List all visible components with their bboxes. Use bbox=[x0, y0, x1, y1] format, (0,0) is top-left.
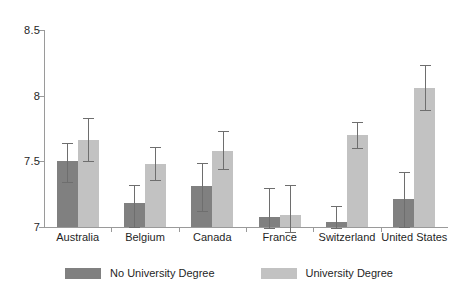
error-bar-cap-bottom bbox=[264, 228, 275, 229]
x-axis-label-belgium: Belgium bbox=[125, 231, 165, 243]
error-bar-line bbox=[404, 172, 405, 227]
y-tick-label: 8 bbox=[34, 90, 40, 102]
error-bar-line bbox=[425, 65, 426, 110]
error-bar-line bbox=[269, 188, 270, 229]
y-tick-label: 7.5 bbox=[24, 155, 40, 167]
error-bar-cap-top bbox=[331, 206, 342, 207]
error-bar-cap-bottom bbox=[218, 169, 229, 170]
error-bar-cap-bottom bbox=[420, 110, 431, 111]
error-bar-cap-top bbox=[129, 185, 140, 186]
bar-group bbox=[179, 30, 246, 227]
error-bar-cap-bottom bbox=[62, 182, 73, 183]
x-axis-label-canada: Canada bbox=[193, 231, 232, 243]
legend-swatch bbox=[261, 268, 297, 279]
y-tick-label: 8.5 bbox=[24, 24, 40, 36]
legend-swatch bbox=[65, 268, 101, 279]
error-bar-cap-bottom bbox=[352, 148, 363, 149]
error-bar-line bbox=[155, 147, 156, 180]
error-bar-cap-top bbox=[62, 143, 73, 144]
error-bar-cap-top bbox=[83, 118, 94, 119]
error-bar-cap-bottom bbox=[150, 180, 161, 181]
error-bar-cap-bottom bbox=[331, 228, 342, 229]
error-bar-cap-top bbox=[197, 163, 208, 164]
bar-group bbox=[44, 30, 111, 227]
x-tick-mark bbox=[313, 227, 314, 232]
error-bar-cap-top bbox=[420, 65, 431, 66]
bar-group bbox=[111, 30, 178, 227]
legend-item[interactable]: University Degree bbox=[261, 267, 393, 279]
error-bar-line bbox=[67, 143, 68, 182]
error-bar-cap-top bbox=[150, 147, 161, 148]
legend-label: No University Degree bbox=[110, 267, 215, 279]
legend-item[interactable]: No University Degree bbox=[65, 267, 215, 279]
y-tick-label: 7 bbox=[34, 221, 40, 233]
error-bar-cap-top bbox=[352, 122, 363, 123]
error-bar-cap-top bbox=[399, 172, 410, 173]
x-axis-label-france: France bbox=[263, 231, 297, 243]
error-bar-cap-bottom bbox=[83, 161, 94, 162]
bar-group bbox=[246, 30, 313, 227]
error-bar-line bbox=[134, 185, 135, 227]
bar-chart-figure: 77.588.5 AustraliaBelgiumCanadaFranceSwi… bbox=[0, 0, 458, 294]
error-bar-line bbox=[202, 163, 203, 212]
x-axis-label-switzerland: Switzerland bbox=[319, 231, 376, 243]
x-tick-mark bbox=[246, 227, 247, 232]
error-bar-line bbox=[336, 206, 337, 228]
legend-label: University Degree bbox=[306, 267, 393, 279]
bar-group bbox=[313, 30, 380, 227]
error-bar-cap-bottom bbox=[129, 227, 140, 228]
error-bar-cap-top bbox=[264, 188, 275, 189]
error-bar-line bbox=[357, 122, 358, 148]
chart-legend: No University DegreeUniversity Degree bbox=[0, 262, 458, 284]
x-tick-mark bbox=[179, 227, 180, 232]
error-bar-line bbox=[88, 118, 89, 161]
bar-group bbox=[381, 30, 448, 227]
error-bar-cap-bottom bbox=[197, 211, 208, 212]
x-axis-label-united-states: United States bbox=[381, 231, 447, 243]
error-bar-line bbox=[223, 131, 224, 169]
error-bar-line bbox=[290, 185, 291, 232]
error-bar-cap-bottom bbox=[399, 227, 410, 228]
error-bar-cap-top bbox=[218, 131, 229, 132]
plot-area: 77.588.5 AustraliaBelgiumCanadaFranceSwi… bbox=[44, 30, 448, 227]
x-axis-label-australia: Australia bbox=[56, 231, 99, 243]
error-bar-cap-top bbox=[285, 185, 296, 186]
x-tick-mark bbox=[111, 227, 112, 232]
